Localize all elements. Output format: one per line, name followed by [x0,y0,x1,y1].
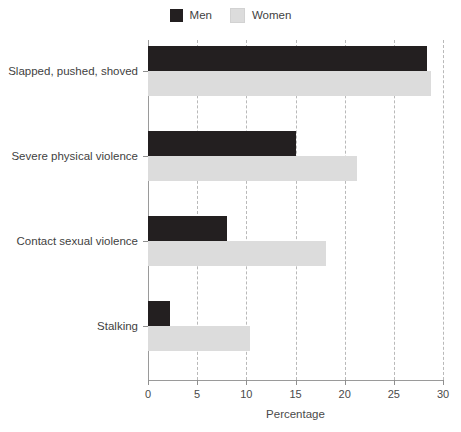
y-axis-tick [143,326,148,327]
bar-chart: MenWomen 051015202530Slapped, pushed, sh… [0,0,461,432]
x-axis-tick-label: 20 [339,388,351,400]
y-axis-tick [143,71,148,72]
x-axis-tick-label: 15 [289,388,301,400]
x-axis-tick [394,380,395,385]
bar-men [148,301,170,326]
bar-women [148,326,250,351]
x-axis-tick [296,380,297,385]
bar-women [148,71,431,96]
category-label: Contact sexual violence [17,235,138,247]
chart-legend: MenWomen [0,8,461,23]
x-axis-tick [345,380,346,385]
x-axis-tick-label: 30 [437,388,449,400]
x-axis-tick-label: 25 [388,388,400,400]
y-axis-tick [143,156,148,157]
legend-swatch-icon [170,9,183,22]
legend-item-women: Women [230,8,291,23]
bar-men [148,216,227,241]
bar-men [148,46,427,71]
x-axis-tick [246,380,247,385]
x-axis-title: Percentage [148,408,443,420]
x-axis-tick-label: 5 [194,388,200,400]
x-axis-tick-label: 10 [240,388,252,400]
bar-men [148,131,296,156]
legend-item-men: Men [170,9,212,22]
x-axis-tick [148,380,149,385]
category-label: Severe physical violence [11,150,138,162]
legend-swatch-icon [230,8,245,23]
bar-women [148,241,326,266]
y-axis-tick [143,241,148,242]
x-axis-tick [443,380,444,385]
legend-label: Women [252,10,291,22]
legend-label: Men [190,10,212,22]
gridline [443,40,444,380]
bar-women [148,156,357,181]
x-axis-tick-label: 0 [145,388,151,400]
category-label: Slapped, pushed, shoved [8,65,138,77]
plot-area: 051015202530Slapped, pushed, shovedSever… [148,40,443,380]
category-label: Stalking [97,320,138,332]
x-axis-tick [197,380,198,385]
